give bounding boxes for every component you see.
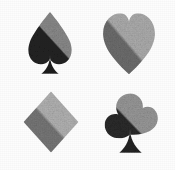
suit-club[interactable] bbox=[98, 90, 162, 157]
club-icon bbox=[98, 90, 162, 157]
suit-diamond[interactable] bbox=[22, 90, 80, 154]
heart-icon bbox=[101, 10, 157, 77]
card-suits-canvas bbox=[0, 0, 175, 170]
spade-icon bbox=[26, 10, 74, 78]
suit-heart[interactable] bbox=[101, 10, 157, 77]
suit-spade[interactable] bbox=[26, 10, 74, 78]
diamond-icon bbox=[22, 90, 80, 154]
